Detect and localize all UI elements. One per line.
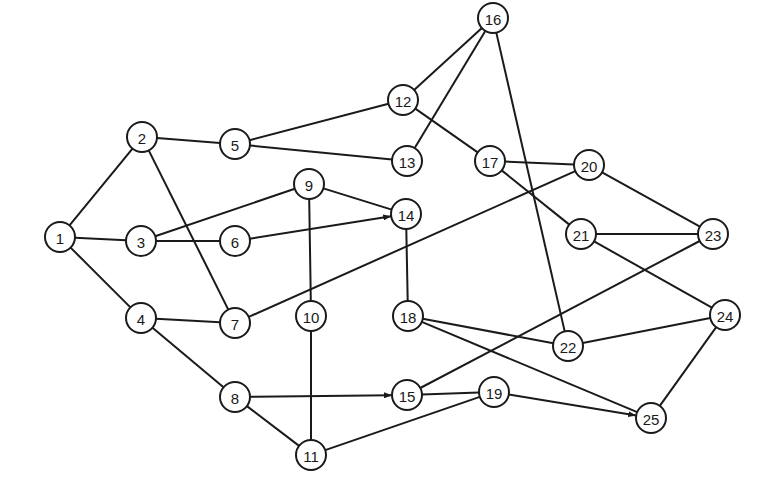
node-13: 13: [392, 146, 422, 176]
edge-2-7: [149, 150, 229, 309]
edge-9-10: [309, 199, 311, 301]
node-5: 5: [220, 129, 250, 159]
node-label: 7: [231, 316, 239, 333]
node-20: 20: [574, 150, 604, 180]
node-label: 20: [581, 158, 598, 175]
edge-8-15: [250, 395, 392, 397]
node-label: 16: [485, 11, 502, 28]
node-label: 15: [399, 388, 416, 405]
node-18: 18: [393, 301, 423, 331]
edge-12-16: [414, 28, 482, 90]
node-label: 8: [231, 390, 239, 407]
node-2: 2: [127, 122, 157, 152]
node-label: 5: [231, 137, 239, 154]
node-label: 24: [717, 308, 734, 325]
node-label: 17: [482, 154, 499, 171]
node-19: 19: [479, 377, 509, 407]
node-label: 25: [643, 411, 660, 428]
node-8: 8: [220, 382, 250, 412]
node-16: 16: [478, 3, 508, 33]
edge-24-25: [660, 327, 716, 406]
node-25: 25: [636, 403, 666, 433]
node-label: 18: [400, 309, 417, 326]
node-label: 3: [137, 234, 145, 251]
node-15: 15: [392, 380, 422, 410]
node-12: 12: [388, 85, 418, 115]
node-6: 6: [220, 226, 250, 256]
node-label: 1: [56, 230, 64, 247]
node-24: 24: [710, 300, 740, 330]
edge-9-14: [323, 188, 391, 209]
edge-4-8: [153, 328, 224, 388]
node-label: 14: [398, 207, 415, 224]
edge-1-3: [75, 238, 126, 241]
node-22: 22: [553, 331, 583, 361]
node-label: 6: [231, 234, 239, 251]
node-label: 2: [138, 130, 146, 147]
node-11: 11: [296, 440, 326, 470]
node-label: 10: [303, 309, 320, 326]
node-label: 11: [303, 448, 319, 465]
edge-17-20: [505, 162, 574, 165]
node-label: 12: [395, 93, 412, 110]
node-7: 7: [220, 308, 250, 338]
edge-20-23: [602, 172, 700, 226]
edge-5-13: [250, 146, 392, 160]
edge-4-7: [156, 319, 220, 322]
node-label: 4: [137, 311, 145, 328]
edge-2-5: [157, 138, 220, 143]
edge-8-11: [247, 406, 299, 446]
node-label: 22: [560, 339, 577, 356]
network-diagram: 1234567891011121314151617181920212223242…: [0, 0, 774, 499]
edge-6-14: [250, 216, 391, 238]
node-23: 23: [698, 219, 728, 249]
edge-16-22: [496, 33, 564, 332]
node-label: 9: [305, 177, 313, 194]
nodes-layer: 1234567891011121314151617181920212223242…: [45, 3, 740, 470]
node-label: 19: [486, 385, 503, 402]
node-label: 13: [399, 154, 416, 171]
node-3: 3: [126, 226, 156, 256]
node-10: 10: [296, 301, 326, 331]
edge-21-24: [594, 241, 712, 307]
edge-14-18: [406, 229, 407, 301]
node-label: 21: [573, 227, 590, 244]
node-1: 1: [45, 222, 75, 252]
node-4: 4: [126, 303, 156, 333]
node-17: 17: [475, 146, 505, 176]
edge-15-19: [422, 393, 479, 395]
edge-19-25: [509, 395, 636, 416]
node-21: 21: [566, 219, 596, 249]
node-9: 9: [294, 169, 324, 199]
edge-22-24: [583, 318, 711, 343]
node-label: 23: [705, 227, 722, 244]
edge-1-4: [71, 248, 131, 308]
edge-1-2: [70, 149, 133, 226]
node-14: 14: [391, 199, 421, 229]
edge-5-12: [250, 104, 389, 140]
edge-13-16: [415, 31, 486, 148]
